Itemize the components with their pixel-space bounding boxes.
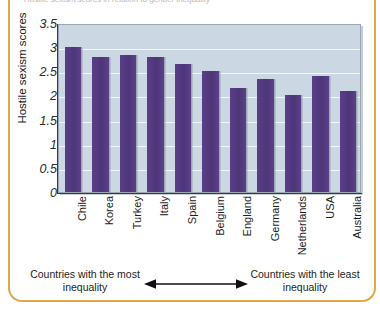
bar: [230, 88, 247, 192]
x-axis-line: [57, 193, 362, 194]
annotation-right-label: Countries with the least inequality: [250, 268, 360, 294]
double-arrow-icon: [144, 278, 248, 290]
y-axis-title: Hostile sexism scores: [16, 0, 28, 138]
y-axis-tick-label: 1: [3, 138, 57, 152]
y-axis-tick-label: 0: [3, 186, 57, 200]
x-axis-labels: ChileKoreaTurkeyItalySpainBelgiumEngland…: [58, 196, 361, 258]
bar: [120, 55, 137, 192]
annotation-left-label: Countries with the most inequality: [30, 268, 140, 294]
bar: [257, 79, 274, 192]
y-axis-tick-label: 0.5: [3, 162, 57, 176]
bar: [202, 71, 219, 192]
gridline: [59, 49, 360, 50]
bar: [92, 57, 109, 192]
x-axis-tick-label: Korea: [103, 196, 115, 225]
inequality-annotation: Countries with the most inequality Count…: [20, 268, 364, 302]
x-axis-tick-label: Australia: [351, 196, 363, 239]
y-axis-tick-label: 2: [3, 89, 57, 103]
bar: [312, 76, 329, 192]
y-axis-ticks: 3.532.521.510.50: [0, 0, 57, 314]
x-axis-tick-label: England: [241, 196, 253, 236]
x-axis-tick-label: Germany: [269, 196, 281, 241]
x-axis-tick-label: Netherlands: [296, 196, 308, 255]
bar: [340, 91, 357, 192]
bar: [65, 47, 82, 192]
y-axis-tick-label: 3: [3, 41, 57, 55]
x-axis-tick-label: Belgium: [214, 196, 226, 236]
y-axis-tick-label: 3.5: [3, 17, 57, 31]
plot-area: [58, 24, 361, 193]
x-axis-tick-label: Chile: [76, 196, 88, 221]
x-axis-tick-label: Italy: [158, 196, 170, 216]
y-axis-tick-label: 1.5: [3, 114, 57, 128]
y-axis-line: [57, 24, 58, 194]
x-axis-tick-label: USA: [324, 196, 336, 219]
y-axis-tick-label: 2.5: [3, 65, 57, 79]
x-axis-tick-label: Spain: [186, 196, 198, 224]
bar: [285, 95, 302, 192]
bar: [147, 57, 164, 192]
x-axis-tick-label: Turkey: [131, 196, 143, 229]
bar: [175, 64, 192, 192]
bar-chart: 3.532.521.510.50 Hostile sexism scores C…: [0, 0, 380, 314]
